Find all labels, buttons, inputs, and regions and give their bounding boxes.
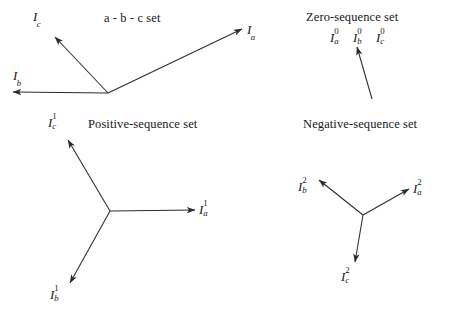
phasor-arrow-ic1 [68,140,110,211]
phasor-sub-ic1: c [52,122,56,131]
phasor-label-ib1: I1b [50,286,60,301]
phasor-arrow-ib1 [70,211,110,283]
phasor-sup-ia1: 1 [203,199,207,208]
phasor-sub-ia0: a [334,37,338,46]
phasor-sub-ib: b [17,78,21,88]
phasor-sup-ib2: 2 [302,176,306,185]
phasor-sup-ia2: 2 [417,178,421,187]
phasor-label-ib0: I0b [353,29,363,44]
phasor-arrow-ia [108,29,242,93]
phasor-label-ib: Ib [13,69,22,85]
phasor-indices-ic2: 2c [345,268,351,281]
phasor-indices-ib1: 1b [54,286,60,299]
phasor-label-ic2: I2c [341,268,351,283]
phasor-label-ia1: I1a [199,201,209,216]
phasor-label-ic0: I0c [376,29,386,44]
phasor-label-ia: Ia [247,23,256,39]
phasor-arrow-ia1 [110,210,195,211]
phasor-vectors-layer [0,0,449,314]
phasor-label-ia0: I0a [330,29,340,44]
panel-title-positive-sequence: Positive-sequence set [88,118,197,131]
panel-title-negative-sequence: Negative-sequence set [303,118,417,131]
phasor-indices-ic1: 1c [52,114,58,127]
phasor-arrow-ic [55,37,108,93]
phasor-sub-ib2: b [302,186,306,195]
phasor-sup-ic0: 0 [380,27,384,36]
phasor-sub-ia: a [251,32,255,42]
panel-title-zero-sequence: Zero-sequence set [306,11,398,24]
phasor-arrow-ia2 [363,189,409,215]
phasor-arrow-ib2 [319,180,363,215]
phasor-indices-ib2: 2b [302,178,308,191]
phasor-label-ia2: I2a [413,180,423,195]
phasor-sup-ic2: 2 [345,266,349,275]
panel-title-abc: a - b - c set [104,12,160,25]
phasor-label-ic1: I1c [48,114,58,129]
phasor-indices-ia2: 2a [417,180,423,193]
phasor-sup-ib1: 1 [54,284,58,293]
phasor-sub-ic: c [37,19,41,29]
figure-canvas: a - b - c set Ia Ic Ib Zero-sequence set… [0,0,449,314]
phasor-arrow-i0 [357,47,372,99]
phasor-sup-ia0: 0 [334,27,338,36]
phasor-label-ic: Ic [33,10,41,26]
phasor-arrow-ic2 [355,215,363,262]
phasor-sub-ia2: a [417,188,421,197]
vector-lines [13,29,409,283]
phasor-sub-ia1: a [203,209,207,218]
phasor-sub-ic2: c [345,276,349,285]
phasor-sup-ic1: 1 [52,112,56,121]
phasor-indices-ia0: 0a [334,29,340,42]
phasor-sub-ic0: c [380,37,384,46]
phasor-label-ib2: I2b [298,178,308,193]
phasor-arrow-ib [13,92,108,93]
phasor-sup-ib0: 0 [357,27,361,36]
phasor-indices-ib0: 0b [357,29,363,42]
phasor-indices-ic0: 0c [380,29,386,42]
phasor-sub-ib1: b [54,294,58,303]
phasor-indices-ia1: 1a [203,201,209,214]
phasor-sub-ib0: b [357,37,361,46]
